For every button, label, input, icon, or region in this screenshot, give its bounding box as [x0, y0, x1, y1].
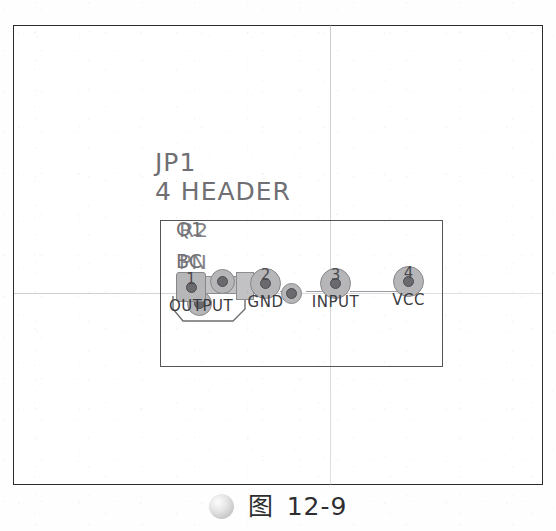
via-pad [281, 283, 302, 304]
pad-hole [217, 276, 228, 287]
transistor-pad-center [210, 269, 235, 294]
pad-1-output[interactable]: 1 OUTPUT [176, 272, 206, 302]
pad-net-name: INPUT [312, 293, 359, 311]
overlay-designator-1b: R2 [179, 219, 208, 241]
pad-number: 4 [394, 264, 423, 282]
pad-4-vcc[interactable]: 4 VCC [393, 266, 424, 297]
pad-2-gnd[interactable]: 2 GND [250, 268, 281, 299]
figure-page: JP1 4 HEADER Q1 R2 BC PN 1 OUTPUT 2 GND [0, 0, 556, 531]
pad-hole [286, 288, 297, 299]
caption-figure-number: 12-9 [287, 494, 348, 519]
figure-caption: 图 12-9 [0, 494, 556, 519]
pad-number: 1 [177, 270, 205, 288]
caption-cjk-label: 图 [248, 494, 273, 519]
pad-net-name: OUTPUT [169, 297, 233, 315]
component-value-label: 4 HEADER [155, 177, 291, 206]
pad-net-name: GND [248, 293, 284, 311]
reference-designator-label: JP1 [155, 148, 196, 177]
gray-sphere-icon [209, 494, 234, 519]
pad-net-name: VCC [392, 291, 425, 309]
pad-number: 2 [251, 266, 280, 284]
pad-number: 3 [321, 266, 350, 284]
pad-3-input[interactable]: 3 INPUT [320, 268, 351, 299]
